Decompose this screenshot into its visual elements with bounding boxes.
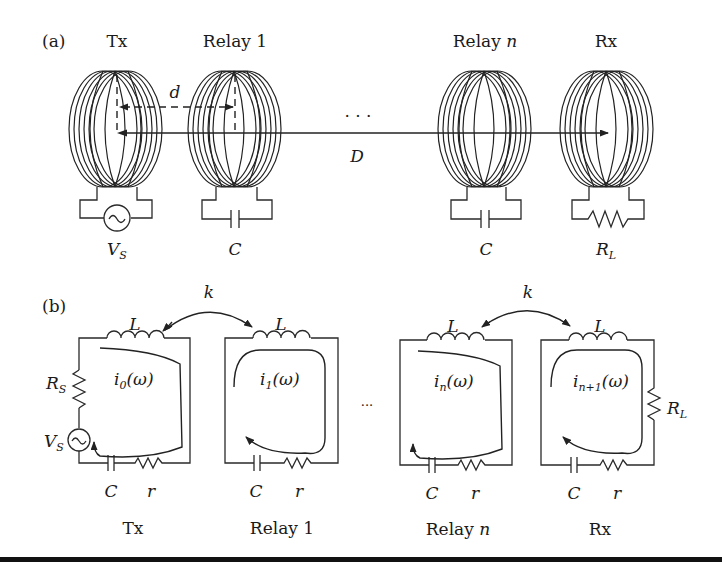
current-in1: in+1(ω) [573,371,629,394]
relay-n-coil-icon [438,71,531,187]
vs-label-b: VS [44,431,64,454]
tx-coil-icon [69,71,162,187]
d-label: d [170,82,181,102]
rx-coil-icon [560,71,653,187]
rs-label: RS [45,373,67,396]
c-label-relayn: C [425,483,438,503]
rx-caption: Rx [589,519,612,539]
rx-title: Rx [595,31,618,51]
current-i1: i1(ω) [260,369,300,392]
c-label-tx: C [104,481,117,501]
l-label-relayn: L [446,316,458,336]
tx-loop [68,331,190,471]
panel-b: (b) k k L RS VS i0(ω) C r Tx [42,282,687,539]
panel-b-label: (b) [42,296,66,316]
l-label-tx: L [128,314,140,334]
k-label-left: k [204,282,214,302]
coupling-arrow-right [485,311,570,326]
panel-a-label: (a) [42,31,65,51]
c-label-relayn: C [479,239,492,259]
relay-1-caption: Relay 1 [250,518,314,538]
relay-1-loop [225,331,338,471]
D-label: D [349,146,364,166]
rl-label-b: RL [666,398,687,421]
c-label-relay1: C [249,481,262,501]
r-label-relayn: r [471,483,480,503]
wpt-relay-diagram: (a) Tx Relay 1 Relay n Rx d D · · · VS [0,0,722,574]
rl-label-a: RL [595,239,616,262]
vs-label-a: VS [107,239,127,262]
l-label-rx: L [593,316,605,336]
bottom-rule [0,557,722,562]
rl-resistor-icon [627,340,660,420]
tx-source-circuit [80,187,152,231]
c-label-relay1: C [228,239,241,259]
relay-n-caption: Relay n [426,519,490,539]
current-i0: i0(ω) [114,369,154,392]
ellipsis-a: · · · [344,106,371,126]
tx-caption: Tx [123,518,144,538]
relay-n-loop [400,333,512,473]
r-label-tx: r [147,481,156,501]
panel-a: (a) Tx Relay 1 Relay n Rx d D · · · VS [42,31,653,262]
current-loop-arrow [94,348,182,457]
r-label-rx: r [613,483,622,503]
rx-loop [541,332,660,473]
resistor-icon [572,187,644,227]
rs-resistor-icon [73,370,85,408]
current-in: in(ω) [434,371,474,394]
relay-1-title: Relay 1 [203,31,267,51]
tx-title: Tx [107,31,128,51]
current-loop-arrow [413,351,502,459]
rx-load-circuit [572,187,644,227]
relay-n-title: Relay n [453,31,517,51]
c-label-rx: C [567,483,580,503]
relay-n-cap-circuit [451,187,521,228]
k-label-right: k [523,282,533,302]
r-label-relay1: r [295,481,304,501]
current-loop-arrow [234,350,325,453]
coupling-arrow-left [165,312,252,330]
l-label-relay1: L [274,314,286,334]
ellipsis-b: ··· [361,398,373,413]
relay-1-cap-circuit [202,187,272,228]
current-loop-arrow [551,350,642,453]
